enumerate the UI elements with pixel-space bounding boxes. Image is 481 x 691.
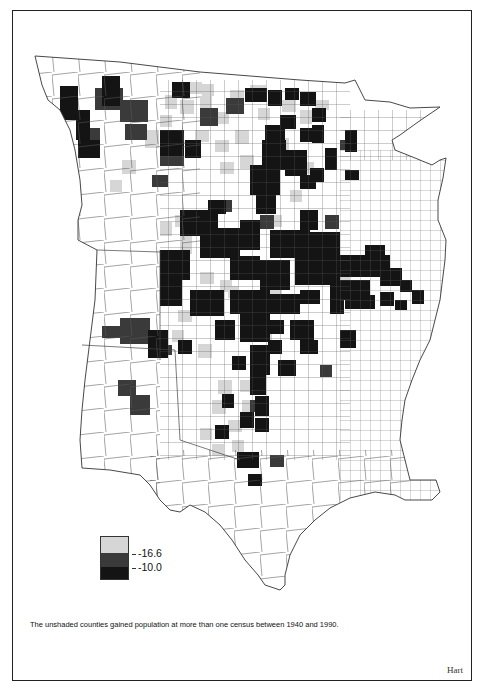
legend-swatches: [100, 536, 129, 580]
county-map: [0, 0, 481, 691]
legend-label-high: -16.6: [132, 547, 162, 559]
legend-swatch-medium: [101, 553, 128, 567]
map-caption: The unshaded counties gained population …: [30, 620, 339, 629]
author-credit: Hart: [447, 665, 463, 675]
legend-swatch-light: [101, 537, 128, 553]
legend-label-low: -10.0: [132, 561, 162, 573]
legend-swatch-dark: [101, 567, 128, 579]
county-layer: [0, 0, 481, 691]
